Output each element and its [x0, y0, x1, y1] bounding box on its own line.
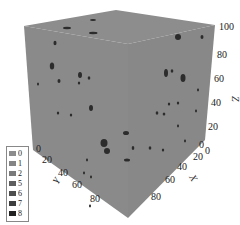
- legend-label: 1: [18, 159, 22, 168]
- legend-item: 6: [9, 189, 22, 198]
- legend-item: 1: [9, 159, 22, 168]
- z-tick: 0: [205, 145, 210, 156]
- y-tick: 40: [58, 167, 68, 178]
- legend-label: 8: [18, 209, 22, 218]
- x-tick: 20: [193, 151, 203, 162]
- y-tick: 20: [42, 154, 52, 165]
- y-tick: 0: [36, 143, 41, 154]
- legend-swatch: [9, 211, 16, 216]
- legend-item: 8: [9, 209, 22, 218]
- legend-item: 7: [9, 199, 22, 208]
- legend-swatch: [9, 161, 16, 166]
- z-tick: 40: [211, 97, 221, 108]
- y-tick: 60: [72, 179, 82, 190]
- x-tick: 60: [165, 174, 175, 185]
- legend-swatch: [9, 191, 16, 196]
- legend-label: 0: [18, 149, 22, 158]
- legend-label: 5: [18, 179, 22, 188]
- legend-swatch: [9, 181, 16, 186]
- cube-right-face: [128, 25, 215, 218]
- legend-item: 0: [9, 149, 22, 158]
- legend-swatch: [9, 151, 16, 156]
- x-tick: 80: [151, 191, 161, 202]
- legend-label: 7: [18, 199, 22, 208]
- x-axis-label: X: [187, 172, 201, 184]
- z-tick: 60: [214, 73, 224, 84]
- legend-swatch: [9, 201, 16, 206]
- z-tick: 20: [208, 121, 218, 132]
- legend-label: 2: [18, 169, 22, 178]
- z-axis-label: Z: [230, 96, 240, 102]
- legend-item: 5: [9, 179, 22, 188]
- y-tick: 80: [90, 193, 100, 204]
- voxel-cube-plot: 100 80 60 40 20 0 Z 0 20 40 60 80 X 0 20…: [0, 0, 240, 225]
- x-tick: 40: [177, 161, 187, 172]
- legend: 0 1 2 5 6 7 8: [6, 146, 29, 222]
- z-tick: 80: [217, 49, 227, 60]
- z-tick: 100: [219, 21, 234, 32]
- legend-label: 6: [18, 189, 22, 198]
- legend-item: 2: [9, 169, 22, 178]
- x-tick: 0: [199, 139, 204, 150]
- legend-swatch: [9, 171, 16, 176]
